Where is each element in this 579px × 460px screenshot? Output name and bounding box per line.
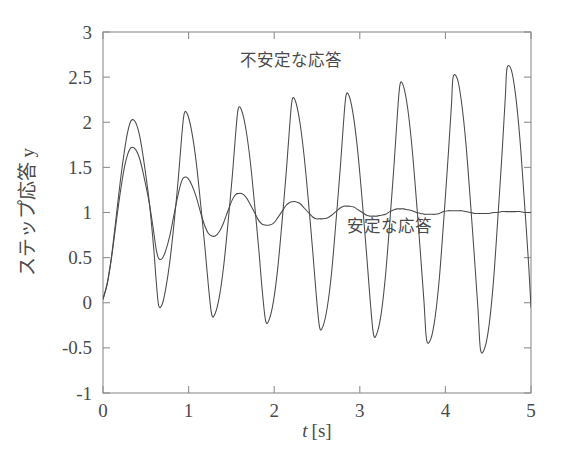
y-tick-label: -1 <box>76 383 92 404</box>
annotation-label: 安定な応答 <box>347 217 432 236</box>
y-tick-label: 1.5 <box>68 157 92 178</box>
y-tick-label: 3 <box>83 22 93 43</box>
y-tick-label: 2 <box>83 112 93 133</box>
chart-canvas: 012345 -1-0.500.511.522.53 不安定な応答安定な応答 t… <box>0 0 579 460</box>
y-tick-label: -0.5 <box>62 337 92 358</box>
curve-unstable-response <box>103 65 531 353</box>
x-tick-label: 3 <box>355 400 365 421</box>
x-tick-label: 0 <box>98 400 108 421</box>
data-curves <box>103 65 531 353</box>
y-axis-ticks <box>103 32 531 393</box>
curve-stable-response <box>103 147 531 299</box>
y-tick-label: 0.5 <box>68 247 92 268</box>
y-tick-label: 2.5 <box>68 67 92 88</box>
x-axis-ticks <box>103 32 531 393</box>
x-tick-label: 1 <box>184 400 194 421</box>
y-axis-label: ステップ応答 y <box>17 147 38 276</box>
y-tick-label: 1 <box>83 202 93 223</box>
y-tick-label: 0 <box>83 292 93 313</box>
x-axis-label: t[s] <box>302 420 331 441</box>
x-tick-label: 4 <box>441 400 451 421</box>
step-response-figure: 012345 -1-0.500.511.522.53 不安定な応答安定な応答 t… <box>0 0 579 460</box>
plot-frame <box>103 32 531 393</box>
x-axis-tick-labels: 012345 <box>98 400 536 421</box>
x-tick-label: 2 <box>269 400 279 421</box>
annotation-label: 不安定な応答 <box>240 51 342 70</box>
y-axis-tick-labels: -1-0.500.511.522.53 <box>62 22 92 404</box>
x-tick-label: 5 <box>526 400 536 421</box>
